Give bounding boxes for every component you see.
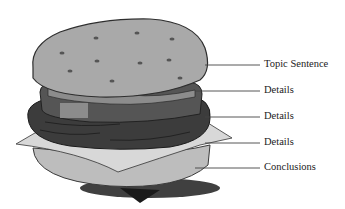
tomato-ring-highlight [60, 103, 88, 118]
hamburger-illustration [0, 0, 345, 209]
label-details-2: Details [264, 111, 294, 122]
top-bun [33, 19, 208, 97]
label-details-1: Details [264, 85, 294, 96]
label-details-3: Details [264, 137, 294, 148]
label-conclusions: Conclusions [264, 162, 316, 173]
label-topic-sentence: Topic Sentence [264, 59, 328, 70]
